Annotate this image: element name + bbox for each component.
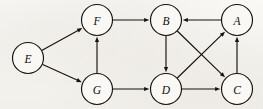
node-label: C [233, 84, 241, 96]
edge-g-to-d [113, 87, 149, 91]
node-label: E [23, 53, 31, 65]
arrowhead-icon [235, 37, 239, 42]
arrowhead-icon [77, 28, 83, 32]
edge-c-to-a [235, 37, 239, 73]
edge-b-to-d [164, 36, 168, 72]
arrowhead-icon [95, 37, 99, 42]
node-label: D [161, 84, 171, 96]
graph-node-g[interactable]: G [82, 74, 113, 105]
edge-line [178, 34, 223, 77]
graph-node-a[interactable]: A [222, 5, 253, 36]
arrowhead-icon [183, 18, 188, 22]
node-label: G [93, 84, 102, 96]
edge-f-to-b [113, 18, 149, 22]
arrowhead-icon [164, 67, 168, 72]
node-label: B [162, 15, 169, 27]
graph-node-b[interactable]: B [151, 5, 182, 36]
arrowhead-icon [144, 87, 149, 91]
graph-node-d[interactable]: D [151, 74, 182, 105]
node-label: A [232, 15, 241, 27]
arrowhead-icon [144, 18, 149, 22]
edge-g-to-f [95, 37, 99, 73]
edge-d-to-c [182, 87, 220, 91]
graph-node-f[interactable]: F [82, 5, 113, 36]
arrowhead-icon [215, 87, 220, 91]
edge-line [42, 30, 79, 50]
graph-figure: EFBAGDC [0, 0, 263, 109]
graph-node-c[interactable]: C [222, 74, 253, 105]
edges-layer [42, 18, 239, 91]
graph-canvas: EFBAGDC [0, 0, 263, 109]
edge-e-to-g [43, 65, 82, 83]
graph-node-e[interactable]: E [13, 43, 44, 74]
edge-e-to-f [42, 28, 82, 50]
edge-line [178, 31, 223, 74]
edge-a-to-b [183, 18, 221, 22]
node-label: F [92, 15, 101, 27]
edge-line [43, 65, 78, 81]
arrowhead-icon [76, 78, 82, 82]
